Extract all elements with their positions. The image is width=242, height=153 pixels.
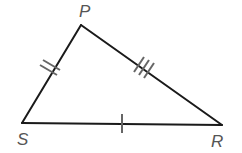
side-ps — [22, 25, 81, 123]
triangle-sides — [22, 25, 222, 125]
tick-marks-ps — [40, 60, 60, 75]
vertex-label-p: P — [79, 3, 90, 20]
side-pr — [81, 25, 222, 125]
triangle-psr — [0, 0, 242, 153]
vertex-label-s: S — [17, 131, 28, 148]
vertex-label-r: R — [211, 133, 223, 150]
